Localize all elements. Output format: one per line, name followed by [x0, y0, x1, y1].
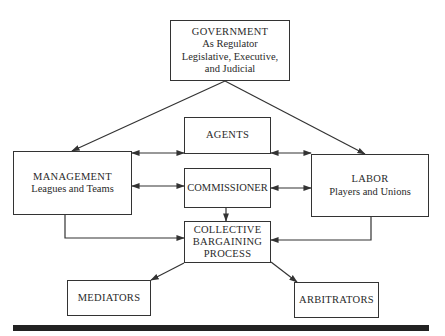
government-line-3: and Judicial	[205, 63, 255, 75]
labor-line-1: Players and Unions	[329, 186, 411, 198]
labor-node: LABOR Players and Unions	[311, 154, 429, 217]
labor-title: LABOR	[351, 173, 388, 185]
management-title: MANAGEMENT	[33, 171, 112, 183]
government-node: GOVERNMENT As Regulator Legislative, Exe…	[170, 20, 290, 81]
edge-collective-arbitrators	[271, 262, 297, 282]
arbitrators-node: ARBITRATORS	[294, 282, 379, 318]
arbitrators-title: ARBITRATORS	[299, 294, 374, 306]
collective-line-2: BARGAINING	[193, 236, 263, 248]
collective-line-3: PROCESS	[204, 248, 252, 260]
edge-management-collective	[65, 215, 184, 238]
mediators-node: MEDIATORS	[67, 280, 151, 316]
management-line-1: Leagues and Teams	[31, 183, 113, 195]
commissioner-node: COMMISSIONER	[184, 168, 271, 208]
management-node: MANAGEMENT Leagues and Teams	[13, 151, 132, 215]
commissioner-title: COMMISSIONER	[187, 182, 268, 194]
government-title: GOVERNMENT	[192, 26, 269, 38]
government-line-1: As Regulator	[202, 38, 258, 50]
collective-line-1: COLLECTIVE	[194, 224, 262, 236]
bottom-rule	[13, 325, 429, 331]
agents-title: AGENTS	[206, 129, 249, 141]
agents-node: AGENTS	[184, 117, 271, 154]
collective-bargaining-node: COLLECTIVE BARGAINING PROCESS	[184, 221, 271, 263]
edge-collective-mediators	[151, 263, 184, 280]
government-line-2: Legislative, Executive,	[182, 51, 279, 63]
mediators-title: MEDIATORS	[78, 292, 141, 304]
edge-labor-collective	[271, 217, 371, 240]
